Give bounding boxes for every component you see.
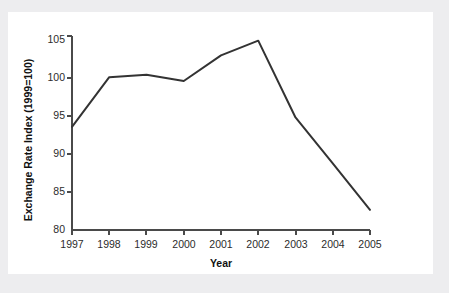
chart-card: Exchange Rate Index (1999=100) 105 100 9… <box>8 12 433 274</box>
x-tick-label-2001: 2001 <box>209 238 233 250</box>
x-tick-label-2000: 2000 <box>172 238 196 250</box>
y-tick-label-100: 100 <box>47 71 65 83</box>
x-axis-title: Year <box>210 257 232 269</box>
y-axis-title: Exchange Rate Index (1999=100) <box>22 59 34 222</box>
y-tick-label-105: 105 <box>47 33 65 45</box>
x-tick-label-2004: 2004 <box>321 238 345 250</box>
x-tick-label-2005: 2005 <box>358 238 382 250</box>
x-tick-label-1998: 1998 <box>97 238 121 250</box>
page-root: Exchange Rate Index (1999=100) 105 100 9… <box>0 0 449 293</box>
y-tick-label-90: 90 <box>53 147 65 159</box>
data-series-exchange-rate-index <box>72 41 370 210</box>
line-chart-figure: Exchange Rate Index (1999=100) 105 100 9… <box>8 12 433 274</box>
x-tick-label-1997: 1997 <box>60 238 84 250</box>
y-tick-label-80: 80 <box>53 223 65 235</box>
y-tick-label-95: 95 <box>53 109 65 121</box>
x-tick-label-2002: 2002 <box>246 238 270 250</box>
y-tick-label-85: 85 <box>53 185 65 197</box>
x-tick-label-1999: 1999 <box>134 238 158 250</box>
x-tick-label-2003: 2003 <box>284 238 308 250</box>
